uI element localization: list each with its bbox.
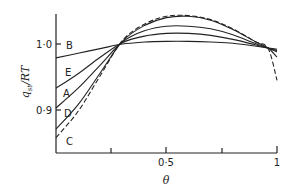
curve-label-b: B (66, 40, 73, 51)
x-tick-label-1: 1 (274, 157, 280, 168)
curve-b (56, 41, 277, 58)
x-axis-title: θ (163, 174, 170, 187)
curves (56, 15, 277, 138)
x-tick-label-0.5: 0·5 (158, 157, 174, 168)
y-axis-title-rest: /RT (19, 64, 32, 86)
curve-label-d: D (64, 108, 72, 119)
curve-label-c: C (66, 136, 73, 147)
svg-text:qst/RT: qst/RT (19, 64, 34, 98)
y-tick-label-1.0: 1·0 (36, 39, 52, 50)
chart: 1·0 0·9 0·5 1 θ qst/RT B E A D C (0, 0, 291, 196)
y-axis-title-main: q (19, 91, 32, 98)
curve-a (56, 26, 277, 108)
curve-label-e: E (65, 67, 71, 78)
curve-label-a: A (63, 88, 70, 99)
y-tick-label-0.9: 0·9 (36, 105, 52, 116)
y-axis-title: qst/RT (19, 64, 34, 98)
